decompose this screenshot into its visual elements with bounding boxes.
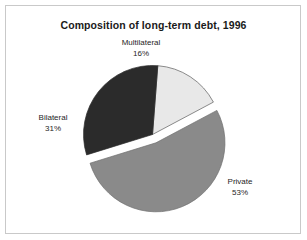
pie-label-multilateral: Multilateral 16% <box>94 37 188 59</box>
pie-chart-figure: Composition of long-term debt, 1996 Mult… <box>0 0 307 240</box>
pie-slices <box>84 65 225 211</box>
pie-label-private-name: Private <box>228 177 253 186</box>
pie-label-bilateral-value: 31% <box>14 123 92 134</box>
pie-label-private: Private 53% <box>205 176 275 198</box>
pie-label-multilateral-value: 16% <box>94 48 188 59</box>
pie-label-bilateral-name: Bilateral <box>39 113 68 122</box>
pie-label-multilateral-name: Multilateral <box>122 38 161 47</box>
pie-label-private-value: 53% <box>205 187 275 198</box>
pie-slice-bilateral[interactable] <box>84 65 158 154</box>
pie-label-bilateral: Bilateral 31% <box>14 112 92 134</box>
